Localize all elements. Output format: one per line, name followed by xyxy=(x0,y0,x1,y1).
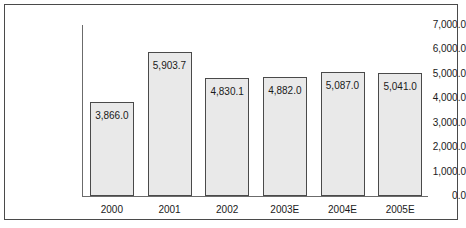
bar-value-label: 5,087.0 xyxy=(313,81,373,91)
x-tick-label: 2003E xyxy=(255,205,315,215)
x-tick-label: 2000 xyxy=(82,205,142,215)
x-tick-label: 2005E xyxy=(370,205,430,215)
y-tick-label: 6,000.0 xyxy=(394,44,466,54)
bar-value-label: 5,903.7 xyxy=(140,61,200,71)
x-tick-label: 2001 xyxy=(140,205,200,215)
y-tick-label: 7,000.0 xyxy=(394,20,466,30)
x-tick-label: 2004E xyxy=(313,205,373,215)
x-tick-label: 2002 xyxy=(197,205,257,215)
bar-value-label: 4,882.0 xyxy=(255,86,315,96)
x-axis-line xyxy=(82,196,428,197)
bar-2001 xyxy=(148,52,192,196)
bar-value-label: 5,041.0 xyxy=(370,82,430,92)
bar-value-label: 4,830.1 xyxy=(197,87,257,97)
bar-chart: 7,000.06,000.05,000.04,000.03,000.02,000… xyxy=(0,0,466,228)
bar-value-label: 3,866.0 xyxy=(82,111,142,121)
